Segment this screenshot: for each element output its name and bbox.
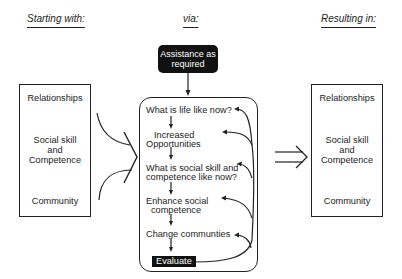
resulting-competence: Competence: [312, 155, 382, 166]
step-increased-line2: Opportunities: [146, 139, 201, 150]
resulting-community: Community: [312, 196, 382, 207]
step-change-communities: Change communties: [146, 229, 230, 240]
starting-and: and: [20, 145, 90, 156]
resulting-social-skill: Social skill: [312, 135, 382, 146]
step-life-now: What is life like now?: [146, 105, 232, 116]
starting-relationships: Relationships: [20, 93, 90, 104]
process-box: [139, 97, 258, 272]
curve-lower-input: [99, 170, 132, 200]
resulting-box: Relationships Social skill and Competenc…: [311, 84, 383, 217]
step-social-skill-line2: competence like now?: [146, 172, 237, 183]
step-enhance-line2: competence: [151, 205, 201, 216]
starting-box: Relationships Social skill and Competenc…: [19, 84, 91, 217]
starting-competence: Competence: [20, 155, 90, 166]
resulting-and: and: [312, 145, 382, 156]
assistance-line2: required: [158, 59, 218, 69]
step-evaluate: Evaluate: [152, 256, 196, 267]
starting-community: Community: [20, 196, 90, 207]
chevron-merge: [124, 132, 137, 183]
assistance-box: Assistance as required: [158, 45, 218, 73]
curve-upper-input: [97, 113, 130, 145]
starting-social-skill: Social skill: [20, 135, 90, 146]
assistance-line1: Assistance as: [158, 49, 218, 59]
resulting-relationships: Relationships: [312, 93, 382, 104]
